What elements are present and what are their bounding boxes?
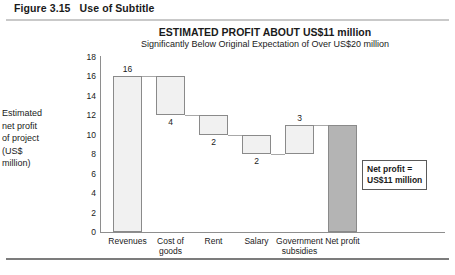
y-axis-title: Estimatednet profitof project(US$million…	[2, 107, 68, 170]
bar-net-profit	[328, 125, 357, 232]
bar-revenues	[113, 76, 142, 232]
y-axis-ticks: 181614121086420	[72, 0, 96, 275]
value-label-salary: 2	[232, 157, 281, 166]
chart-subtitle: Significantly Below Original Expectation…	[80, 39, 450, 49]
bar-government-subsidies	[285, 125, 314, 154]
y-tick-6: 6	[91, 170, 96, 178]
y-axis-title-line: net profit	[2, 120, 68, 133]
net-profit-annotation: Net profit = US$11 million	[362, 160, 427, 190]
y-tick-2: 2	[91, 209, 96, 217]
y-axis-title-line: (US$	[2, 145, 68, 158]
value-label-revenues: 16	[103, 65, 152, 74]
y-tick-18: 18	[87, 53, 96, 61]
figure-container: Figure 3.15Use of Subtitle ESTIMATED PRO…	[0, 0, 455, 275]
waterfall-connector	[314, 125, 328, 126]
y-tick-0: 0	[91, 228, 96, 236]
y-tick-14: 14	[87, 92, 96, 100]
bar-cost-of-goods	[156, 76, 185, 115]
x-axis-line	[100, 232, 445, 233]
x-label-line: subsidies	[271, 246, 329, 256]
x-label-line: Net profit	[314, 236, 372, 246]
y-tick-8: 8	[91, 150, 96, 158]
value-label-government-subsidies: 3	[275, 114, 324, 123]
bar-salary	[242, 135, 271, 154]
value-label-cost-of-goods: 4	[146, 118, 195, 127]
waterfall-connector	[142, 76, 156, 77]
y-axis-title-line: Estimated	[2, 107, 68, 120]
waterfall-connector	[185, 115, 199, 116]
y-tick-16: 16	[87, 72, 96, 80]
y-tick-10: 10	[87, 131, 96, 139]
y-tick-12: 12	[87, 111, 96, 119]
bar-rent	[199, 115, 228, 135]
y-axis-title-line: of project	[2, 132, 68, 145]
waterfall-connector	[228, 135, 242, 136]
x-label-line: goods	[142, 246, 200, 256]
y-tick-4: 4	[91, 189, 96, 197]
y-axis-title-line: million)	[2, 157, 68, 170]
waterfall-connector	[271, 154, 285, 155]
x-label-net-profit: Net profit	[314, 236, 372, 246]
chart-title: ESTIMATED PROFIT ABOUT US$11 million	[80, 26, 450, 38]
value-label-rent: 2	[189, 138, 238, 147]
figure-caption-number: Figure 3.15	[14, 2, 71, 14]
y-axis-line	[100, 56, 101, 233]
figure-bottom-divider	[6, 258, 449, 260]
